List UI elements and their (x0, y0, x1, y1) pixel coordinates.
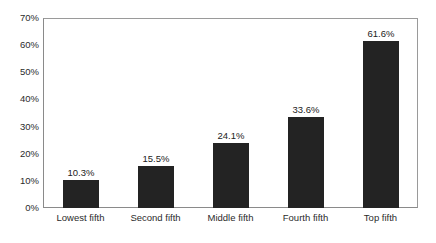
x-axis: Lowest fifth Second fifth Middle fifth F… (43, 212, 418, 232)
x-tick-label-second-fifth: Second fifth (118, 212, 193, 224)
bar-rect[interactable] (213, 143, 249, 208)
bar-rect[interactable] (63, 180, 99, 208)
y-tick-label: 30% (0, 122, 39, 132)
bar-value-label: 15.5% (122, 153, 190, 164)
y-tick-label: 20% (0, 149, 39, 159)
bar-rect[interactable] (288, 117, 324, 208)
y-tick-label: 40% (0, 94, 39, 104)
bar-rect[interactable] (138, 166, 174, 208)
y-tick-label: 70% (0, 13, 39, 23)
bar-group[interactable]: 10.3% (63, 18, 99, 208)
y-tick-label: 10% (0, 176, 39, 186)
y-tick-label: 50% (0, 67, 39, 77)
x-tick-label-middle-fifth: Middle fifth (193, 212, 268, 224)
y-axis: 70% 60% 50% 40% 30% 20% 10% 0% (0, 0, 39, 243)
bars-layer: 10.3% 15.5% 24.1% 33.6% 61.6% (43, 18, 418, 208)
bar-group[interactable]: 15.5% (138, 18, 174, 208)
bar-rect[interactable] (363, 41, 399, 208)
bar-value-label: 24.1% (197, 130, 265, 141)
x-tick-label-top-fifth: Top fifth (343, 212, 418, 224)
bar-group[interactable]: 61.6% (363, 18, 399, 208)
bar-value-label: 33.6% (272, 104, 340, 115)
bar-value-label: 61.6% (347, 28, 415, 39)
x-tick-label-lowest-fifth: Lowest fifth (43, 212, 118, 224)
bar-chart: 70% 60% 50% 40% 30% 20% 10% 0% 10.3% 15.… (0, 0, 436, 243)
y-tick-label: 0% (0, 203, 39, 213)
y-tick-label: 60% (0, 40, 39, 50)
bar-group[interactable]: 24.1% (213, 18, 249, 208)
bar-group[interactable]: 33.6% (288, 18, 324, 208)
bar-value-label: 10.3% (47, 167, 115, 178)
x-tick-label-fourth-fifth: Fourth fifth (268, 212, 343, 224)
